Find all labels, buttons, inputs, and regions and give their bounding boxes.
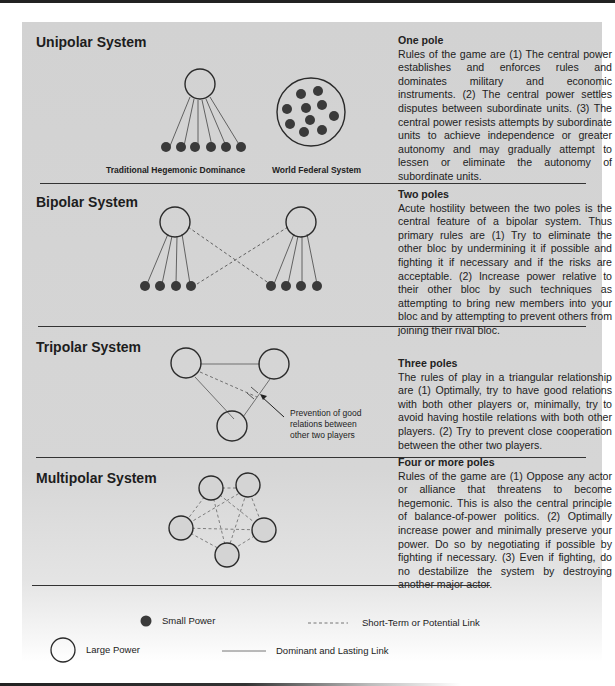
legend-dominant-link: Dominant and Lasting Link xyxy=(276,645,389,656)
legend-large-power: Large Power xyxy=(86,644,140,655)
legend-small-power: Small Power xyxy=(162,615,215,626)
large-power-legend-icon xyxy=(51,638,75,662)
legend-symbols xyxy=(0,0,615,686)
small-power-legend-icon xyxy=(141,616,152,627)
legend-short-term-link: Short-Term or Potential Link xyxy=(362,617,480,628)
